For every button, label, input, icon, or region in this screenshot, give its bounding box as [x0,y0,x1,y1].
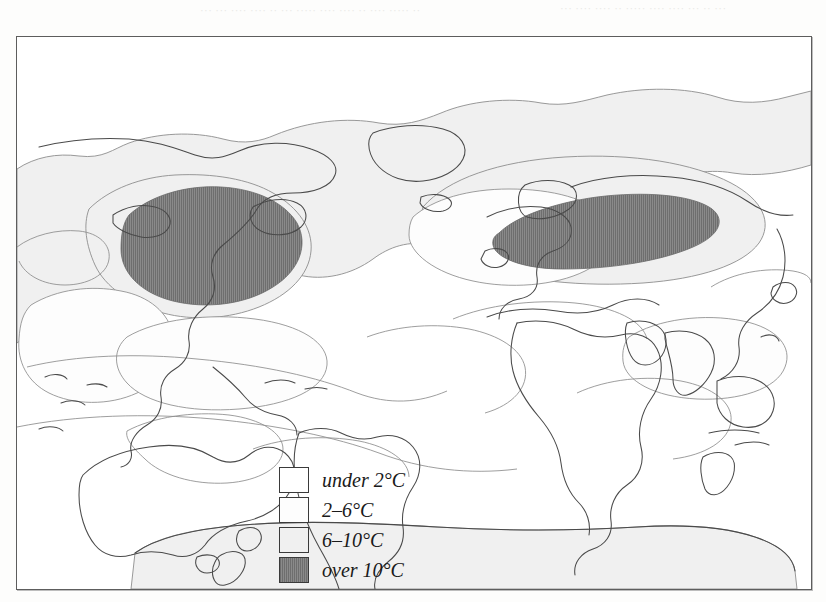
world-temperature-change-map [17,37,811,589]
legend-item-over-10: over 10°C [279,555,405,585]
band-2-6-southern-asia [623,318,787,400]
bleed-line: ··· ··· ···· ···· ·· ··· ····· ···· ····… [200,4,421,16]
legend-swatch-6-10 [279,527,309,553]
legend-item-2-6: 2–6°C [279,495,405,525]
figure-frame: c [16,36,812,590]
page-bleed-through: ··· ··· ···· ···· ·· ··· ····· ···· ····… [0,0,826,34]
legend-item-under-2: under 2°C [279,465,405,495]
band-6-10-antarctica [131,522,797,589]
legend-label-under-2: under 2°C [322,470,405,490]
legend-swatch-under-2 [279,467,309,493]
bleed-line: ··· ···· ···· ·· ····· ···· ···· ··· ·· … [560,2,727,14]
legend-swatch-over-10 [279,557,309,583]
legend-label-over-10: over 10°C [322,560,404,580]
legend-label-6-10: 6–10°C [322,530,383,550]
legend-swatch-2-6 [279,497,309,523]
legend-label-2-6: 2–6°C [322,500,373,520]
band-2-6-mid-pacific [117,317,328,410]
map-legend: under 2°C 2–6°C 6–10°C over 10°C [273,459,413,590]
legend-item-6-10: 6–10°C [279,525,405,555]
